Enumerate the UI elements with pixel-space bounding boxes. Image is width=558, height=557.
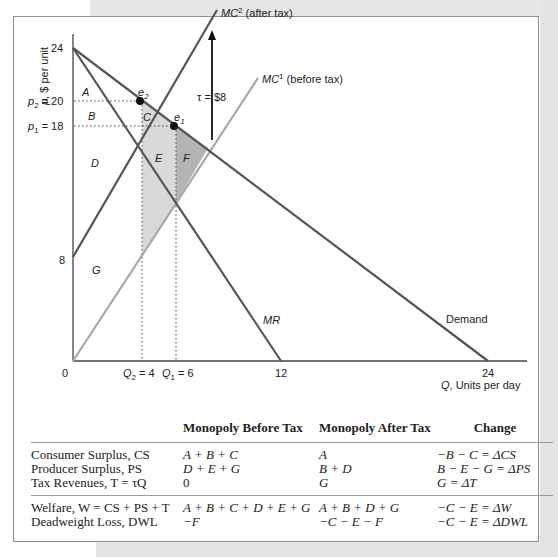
x-tick-24: 24 [482, 367, 494, 379]
cell-change: −C − E = ΔDWL [437, 515, 553, 529]
monopoly-tax-chart: p, $ per unit Q, Units per day 24 p2 = 2… [0, 0, 558, 420]
tax-label: τ = $8 [197, 91, 226, 103]
welfare-summary-table: Monopoly Before Tax Monopoly After Tax C… [31, 420, 553, 529]
cell-after: A [319, 448, 437, 462]
mc1-label: MC1 (before tax) [262, 72, 343, 85]
region-c: C [143, 111, 151, 123]
x-tick-0: 0 [62, 367, 68, 379]
x-tick-q2: Q2 = 4 [123, 367, 155, 382]
e1-point [170, 122, 178, 130]
mr-label: MR [263, 314, 280, 326]
tax-arrow-head [208, 30, 216, 40]
cell-after: −C − E − F [319, 515, 437, 529]
row-label: Producer Surplus, PS [31, 462, 183, 476]
header-change: Change [437, 420, 553, 442]
cell-change: −C − E = ΔW [437, 501, 553, 515]
table-row: Producer Surplus, PS D + E + G B + D B −… [31, 462, 553, 476]
x-axis-label: Q, Units per day [441, 379, 521, 391]
header-after-tax: Monopoly After Tax [319, 420, 437, 442]
row-label: Deadweight Loss, DWL [31, 515, 183, 529]
table-header-row: Monopoly Before Tax Monopoly After Tax C… [31, 420, 553, 442]
x-tick-12: 12 [275, 367, 287, 379]
table-row: Deadweight Loss, DWL −F −C − E − F −C − … [31, 515, 553, 529]
table-row: Consumer Surplus, CS A + B + C A −B − C … [31, 448, 553, 462]
x-tick-q1: Q1 = 6 [162, 367, 194, 382]
header-blank [31, 420, 183, 442]
region-e: E [155, 152, 163, 164]
cell-before: 0 [183, 476, 319, 490]
demand-curve [73, 48, 488, 361]
cell-before: A + B + C [183, 448, 319, 462]
region-d: D [91, 157, 99, 169]
header-before-tax: Monopoly Before Tax [183, 420, 319, 442]
cell-after: A + B + D + G [319, 501, 437, 515]
y-tick-p1: p1 = 18 [27, 120, 63, 135]
y-tick-p2: p2 = 20 [27, 95, 63, 110]
page-background-bottom [96, 542, 558, 557]
cell-before: −F [183, 515, 319, 529]
y-tick-24: 24 [51, 42, 63, 54]
cell-change: G = ΔT [437, 476, 553, 490]
cell-after: G [319, 476, 437, 490]
mc2-label: MC2 (after tax) [221, 6, 293, 19]
cell-after: B + D [319, 462, 437, 476]
row-label: Welfare, W = CS + PS + T [31, 501, 183, 515]
region-b: B [88, 110, 95, 122]
row-label: Consumer Surplus, CS [31, 448, 183, 462]
demand-label: Demand [446, 313, 488, 325]
y-tick-8: 8 [59, 254, 65, 266]
region-g: G [92, 264, 101, 276]
row-label: Tax Revenues, T = τQ [31, 476, 183, 490]
table-row: Welfare, W = CS + PS + T A + B + C + D +… [31, 501, 553, 515]
region-a: A [81, 86, 89, 98]
cell-change: B − E − G = ΔPS [437, 462, 553, 476]
table-row: Tax Revenues, T = τQ 0 G G = ΔT [31, 476, 553, 490]
e2-point [136, 97, 144, 105]
cell-before: A + B + C + D + E + G [183, 501, 319, 515]
cell-before: D + E + G [183, 462, 319, 476]
cell-change: −B − C = ΔCS [437, 448, 553, 462]
